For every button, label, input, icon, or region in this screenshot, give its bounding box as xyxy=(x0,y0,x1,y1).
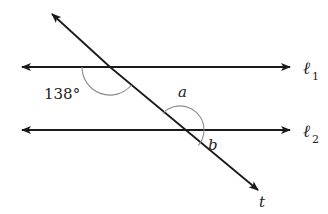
angle-arc-a xyxy=(163,106,204,130)
angle-label-138: 138° xyxy=(44,85,80,103)
angle-label-b: b xyxy=(208,136,218,154)
angle-label-a: a xyxy=(178,83,187,101)
line-t xyxy=(52,14,258,190)
svg-text:ℓ: ℓ xyxy=(303,121,310,141)
line-label-t: t xyxy=(259,193,266,211)
diagram-svg: 138° a b ℓ 1 ℓ 2 t xyxy=(0,0,328,214)
svg-text:1: 1 xyxy=(312,70,319,83)
geometry-diagram: 138° a b ℓ 1 ℓ 2 t xyxy=(0,0,328,214)
line-label-l1: ℓ 1 xyxy=(303,58,319,83)
line-label-l2: ℓ 2 xyxy=(303,121,319,146)
svg-text:2: 2 xyxy=(312,133,319,146)
svg-text:ℓ: ℓ xyxy=(303,58,310,78)
angle-arc-138 xyxy=(82,67,132,95)
